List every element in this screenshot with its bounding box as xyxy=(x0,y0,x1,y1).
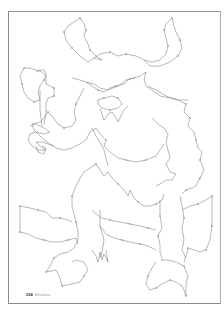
pants-outline xyxy=(92,210,156,230)
left-body-outline xyxy=(72,178,80,248)
pants-zigzag xyxy=(92,250,108,262)
page-number: 294 xyxy=(26,292,33,297)
dot-to-dot-artwork xyxy=(0,0,224,310)
pants-lower xyxy=(100,226,156,250)
right-boot-outline xyxy=(182,196,212,262)
waist-outline xyxy=(80,164,164,206)
head-top-outline xyxy=(94,52,144,60)
right-arm-inner xyxy=(152,118,176,186)
left-foot-outline xyxy=(46,248,88,286)
left-horn-outline xyxy=(64,18,102,62)
right-horn-outline xyxy=(144,18,182,66)
right-leg-inner xyxy=(180,196,186,258)
dots-layer xyxy=(19,17,213,297)
right-foot-outline xyxy=(146,260,188,296)
right-leg-outline xyxy=(158,200,162,258)
footer-caption: Minotaur xyxy=(35,292,51,297)
left-arm-outline xyxy=(32,88,96,150)
page-footer: 294Minotaur xyxy=(26,292,50,297)
axe-blade-outline xyxy=(20,68,46,102)
chest-outline xyxy=(96,128,164,162)
left-leg-lower xyxy=(20,206,78,244)
left-leg-outline xyxy=(20,206,72,222)
face-outline xyxy=(86,72,188,100)
